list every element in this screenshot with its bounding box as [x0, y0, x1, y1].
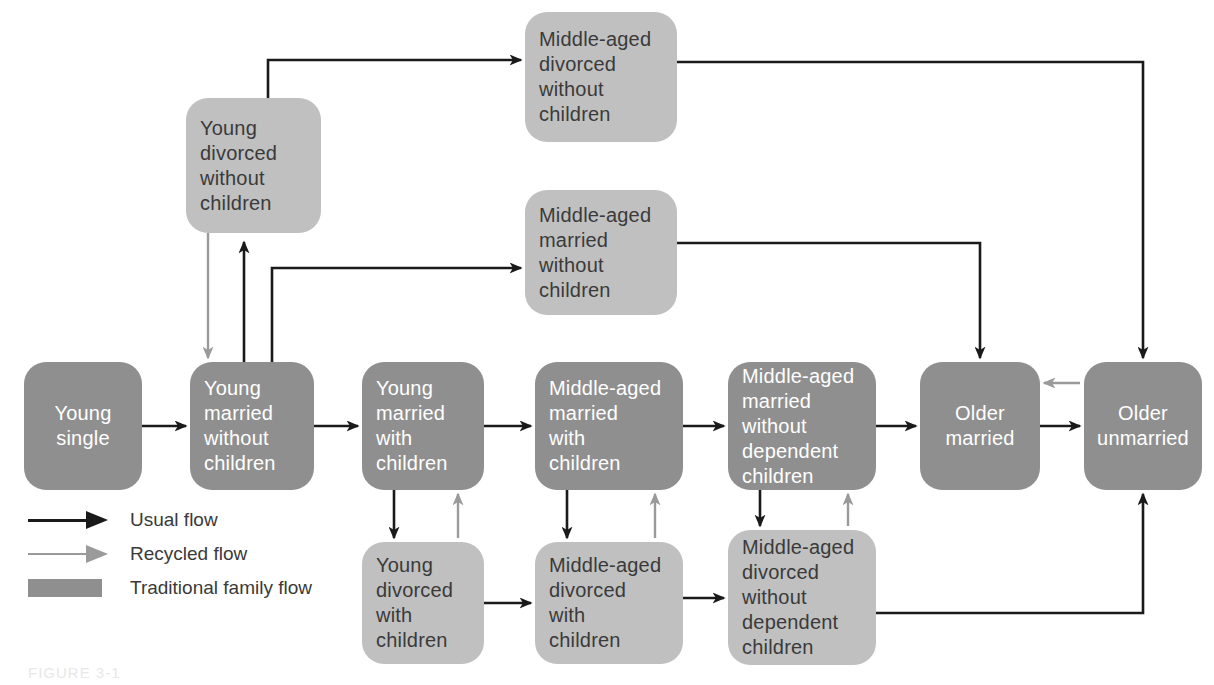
edge-ydnc-to-mdnc	[268, 60, 521, 98]
legend-label: Traditional family flow	[130, 577, 312, 599]
legend-line	[28, 553, 94, 555]
legend-arrowhead	[86, 545, 108, 563]
node-older-married[interactable]: Older married	[920, 362, 1040, 490]
node-label: Older unmarried	[1097, 401, 1189, 451]
node-young-divorced-no-children[interactable]: Young divorced without children	[186, 98, 321, 233]
edge-mmnc-to-older-married	[677, 243, 980, 358]
node-middle-divorced-no-dep[interactable]: Middle-aged divorced without dependent c…	[728, 530, 876, 665]
node-middle-married-no-dep[interactable]: Middle-aged married without dependent ch…	[728, 362, 876, 490]
figure-caption: FIGURE 3-1	[28, 664, 121, 681]
legend-label: Recycled flow	[130, 543, 247, 565]
node-label: Young married without children	[204, 376, 276, 476]
node-middle-divorced-no-children[interactable]: Middle-aged divorced without children	[525, 12, 677, 142]
legend-item-traditional-family-flow-swatch: Traditional family flow	[28, 573, 312, 603]
node-middle-divorced-children[interactable]: Middle-aged divorced with children	[535, 542, 683, 664]
node-middle-married-children[interactable]: Middle-aged married with children	[535, 362, 683, 490]
usual-flow-arrow	[28, 507, 120, 533]
edge-mdnd-to-older-unmarried	[876, 494, 1143, 613]
recycled-flow-arrow	[28, 541, 120, 567]
legend-swatch	[28, 579, 102, 597]
legend-line	[28, 519, 94, 522]
node-label: Middle-aged divorced without dependent c…	[742, 535, 854, 660]
diagram-canvas: Young singleYoung married without childr…	[0, 0, 1214, 685]
edge-ymnc-to-mmnc	[272, 268, 521, 362]
node-young-divorced-children[interactable]: Young divorced with children	[362, 542, 484, 664]
edge-mdnc-to-older-unmarried	[677, 62, 1143, 358]
node-label: Middle-aged married without dependent ch…	[742, 364, 854, 489]
node-label: Middle-aged married with children	[549, 376, 661, 476]
traditional-family-flow-swatch	[28, 575, 120, 601]
node-label: Young divorced with children	[376, 553, 453, 653]
node-label: Middle-aged married without children	[539, 203, 651, 303]
node-middle-married-no-children[interactable]: Middle-aged married without children	[525, 190, 677, 315]
legend: Usual flowRecycled flowTraditional famil…	[28, 505, 312, 607]
node-young-married-no-children[interactable]: Young married without children	[190, 362, 314, 490]
node-label: Middle-aged divorced without children	[539, 27, 651, 127]
node-label: Young married with children	[376, 376, 448, 476]
node-label: Older married	[945, 401, 1014, 451]
node-older-unmarried[interactable]: Older unmarried	[1084, 362, 1202, 490]
legend-label: Usual flow	[130, 509, 218, 531]
legend-item-recycled-flow-arrow: Recycled flow	[28, 539, 312, 569]
node-young-married-children[interactable]: Young married with children	[362, 362, 484, 490]
legend-item-usual-flow-arrow: Usual flow	[28, 505, 312, 535]
node-label: Young single	[55, 401, 112, 451]
legend-arrowhead	[86, 511, 108, 529]
node-label: Middle-aged divorced with children	[549, 553, 661, 653]
node-young-single[interactable]: Young single	[24, 362, 142, 490]
node-label: Young divorced without children	[200, 116, 277, 216]
